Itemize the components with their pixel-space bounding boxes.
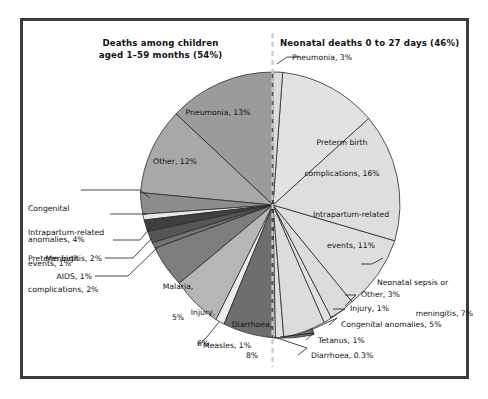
callout-preterm-child-line2: complications, 2% (28, 285, 118, 295)
callout-injury-neo: Injury, 1% (350, 304, 420, 314)
label-intrapartum-neo-line1: Intrapartum-related (283, 210, 419, 220)
header-left-group: Deaths among children aged 1–59 months (… (58, 38, 263, 61)
callout-other-neo: Other, 3% (361, 290, 431, 300)
header-left-line1: Deaths among children (58, 38, 263, 50)
label-preterm-neo: Preterm birth complications, 16% (276, 118, 408, 200)
label-preterm-neo-line1: Preterm birth (276, 138, 408, 148)
callout-measles-child: Measles, 1% (203, 341, 283, 351)
callout-meningitis-child: Meningitis, 2% (28, 254, 102, 264)
header-left-line2: aged 1–59 months (54%) (58, 50, 263, 62)
callout-sepsis-neo-line1: Neonatal sepsis or (377, 278, 485, 288)
figure-root: Deaths among children aged 1–59 months (… (0, 0, 488, 399)
label-intrapartum-neo-line2: events, 11% (283, 241, 419, 251)
label-preterm-neo-line2: complications, 16% (276, 169, 408, 179)
label-other-child: Other, 12% (120, 157, 230, 167)
label-diarrhoea-line1: Diarrhoea, (214, 320, 290, 330)
callout-pneumonia-neo: Pneumonia, 3% (292, 53, 402, 63)
callout-diarrhoea-neo: Diarrhoea, 0.3% (311, 351, 403, 361)
callout-aids-child: AIDS, 1% (28, 272, 92, 282)
label-diarrhoea-line2: 8% (214, 351, 290, 361)
header-right-group: Neonatal deaths 0 to 27 days (46%) (280, 38, 480, 50)
label-pneumonia-child: Pneumonia, 13% (158, 108, 278, 118)
callout-congenital-neo: Congenital anomalies, 5% (341, 320, 471, 330)
